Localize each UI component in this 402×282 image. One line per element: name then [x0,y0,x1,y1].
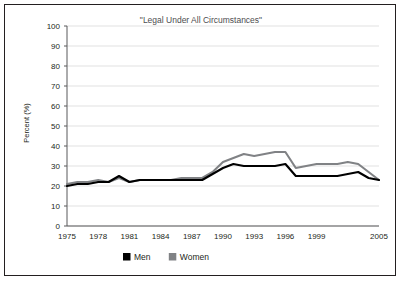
line-chart: "Legal Under All Circumstances" Percent … [5,5,397,277]
x-tick-label: 1981 [121,232,139,241]
y-tick-label: 40 [51,142,60,151]
y-tick-label: 10 [51,202,60,211]
gridlines [67,26,379,226]
x-tick-label: 1984 [152,232,170,241]
x-tick-label: 1996 [277,232,295,241]
y-tick-label: 0 [56,222,61,231]
y-tick-label: 20 [51,182,60,191]
y-tick-label: 50 [51,122,60,131]
series-line-men [67,164,379,186]
legend-swatch [123,253,131,261]
chart-title: "Legal Under All Circumstances" [140,15,262,25]
x-tick-label: 1978 [89,232,107,241]
y-tick-label: 90 [51,42,60,51]
y-tick-label: 70 [51,82,60,91]
x-tick-label: 1990 [214,232,232,241]
x-tick-label: 1987 [183,232,201,241]
chart-frame: "Legal Under All Circumstances" Percent … [4,4,396,276]
x-tick-label: 1975 [58,232,76,241]
legend-swatch [169,253,177,261]
x-tick-label: 1993 [245,232,263,241]
y-tick-label: 30 [51,162,60,171]
y-tick-label: 80 [51,62,60,71]
y-axis-tick-labels: 0102030405060708090100 [47,22,67,231]
x-axis-tick-labels: 1975197819811984198719901993199619992005 [58,232,388,241]
legend-label: Women [180,252,209,262]
chart-legend: MenWomen [123,252,209,262]
x-tick-label: 2005 [370,232,388,241]
y-tick-label: 60 [51,102,60,111]
legend-label: Men [134,252,151,262]
x-tick-label: 1999 [308,232,326,241]
y-tick-label: 100 [47,22,61,31]
y-axis-label: Percent (%) [22,103,31,143]
